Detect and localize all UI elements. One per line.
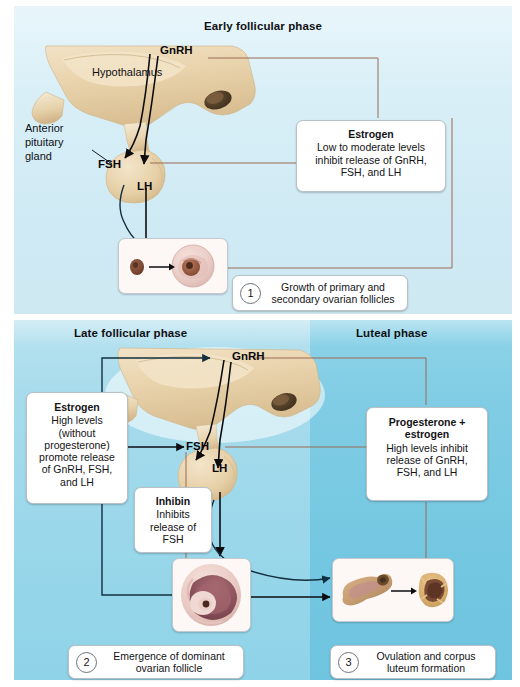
hormone-label-fsh-late: FSH: [186, 440, 209, 452]
legend-step-3: 3 Ovulation and corpus luteum formation: [330, 645, 496, 679]
hormone-label-lh-early: LH: [137, 180, 152, 192]
progesterone-box-line2: release of GnRH,: [372, 454, 482, 466]
label-anterior-pituitary-line1: Anterior: [25, 122, 64, 136]
hormone-label-fsh-early: FSH: [98, 158, 121, 170]
inhibin-box-line2: release of: [140, 521, 206, 533]
legend-text-1-line2: secondary ovarian follicles: [268, 293, 398, 305]
label-anterior-pituitary-line3: gland: [25, 150, 64, 164]
ovulation-corpus-luteum-micrographs: [333, 559, 453, 621]
inhibin-box-title: Inhibin: [140, 495, 206, 507]
legend-text-2-line1: Emergence of dominant: [104, 650, 234, 662]
legend-number-3: 3: [338, 652, 359, 673]
inhibin-info-box: Inhibin Inhibits release of FSH: [134, 487, 212, 553]
legend-step-1: 1 Growth of primary and secondary ovaria…: [232, 275, 408, 311]
estrogen-box-line5-late: of GnRH, FSH,: [32, 463, 122, 475]
estrogen-box-line1-late: High levels: [32, 414, 122, 426]
panel-title-luteal: Luteal phase: [356, 327, 428, 339]
legend-text-2-line2: ovarian follicle: [104, 662, 234, 674]
legend-number-2: 2: [76, 652, 97, 673]
estrogen-info-box-late: Estrogen High levels (without progestero…: [26, 392, 128, 504]
hormonal-control-figure: Early follicular phase: [0, 0, 520, 687]
estrogen-box-line1-early: Low to moderate levels: [302, 141, 440, 153]
estrogen-box-line2-early: inhibit release of GnRH,: [302, 154, 440, 166]
dominant-follicle-micrograph: [173, 559, 250, 631]
estrogen-box-line3-late: progesterone): [32, 439, 122, 451]
estrogen-box-line3-early: FSH, and LH: [302, 166, 440, 178]
progesterone-box-line3: FSH, and LH: [372, 466, 482, 478]
estrogen-info-box-early: Estrogen Low to moderate levels inhibit …: [296, 120, 446, 192]
progesterone-box-title-line1: Progesterone +: [372, 416, 482, 428]
progesterone-estrogen-info-box: Progesterone + estrogen High levels inhi…: [366, 407, 488, 501]
legend-text-3-line1: Ovulation and corpus: [366, 650, 486, 662]
hormone-label-gnrh-early: GnRH: [160, 44, 193, 56]
label-hypothalamus-early: Hypothalamus: [92, 66, 162, 78]
legend-number-1: 1: [240, 283, 261, 304]
label-anterior-pituitary-gland-early: Anterior pituitary gland: [25, 122, 64, 163]
panel-title-early-follicular: Early follicular phase: [14, 20, 512, 32]
legend-text-3-line2: luteum formation: [366, 662, 486, 674]
estrogen-box-line6-late: and LH: [32, 476, 122, 488]
legend-text-1: Growth of primary and secondary ovarian …: [268, 281, 398, 305]
legend-text-3: Ovulation and corpus luteum formation: [366, 650, 486, 674]
progesterone-box-line1: High levels inhibit: [372, 442, 482, 454]
specimen-box-dominant-follicle: [172, 558, 251, 632]
estrogen-box-line4-late: promote release: [32, 451, 122, 463]
hormone-label-gnrh-late: GnRH: [232, 350, 265, 362]
specimen-box-early-follicles: [118, 238, 228, 294]
follicle-micrographs-early: [119, 239, 227, 293]
estrogen-box-line2-late: (without: [32, 427, 122, 439]
estrogen-box-title-late: Estrogen: [32, 401, 122, 413]
legend-text-1-line1: Growth of primary and: [268, 281, 398, 293]
legend-text-2: Emergence of dominant ovarian follicle: [104, 650, 234, 674]
hormone-label-lh-late: LH: [212, 462, 227, 474]
estrogen-box-title-early: Estrogen: [302, 128, 440, 140]
specimen-box-corpus-luteum: [332, 558, 454, 622]
progesterone-box-title-line2: estrogen: [372, 428, 482, 440]
inhibin-box-line3: FSH: [140, 533, 206, 545]
inhibin-box-line1: Inhibits: [140, 508, 206, 520]
legend-step-2: 2 Emergence of dominant ovarian follicle: [68, 645, 244, 679]
panel-title-late-follicular: Late follicular phase: [74, 327, 187, 339]
label-anterior-pituitary-line2: pituitary: [25, 136, 64, 150]
